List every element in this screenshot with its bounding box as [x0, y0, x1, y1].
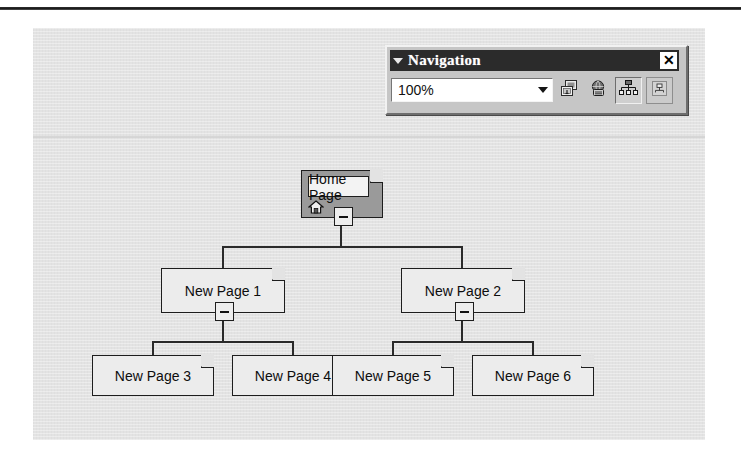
- connector-to-page4: [292, 341, 294, 356]
- external-link-button[interactable]: [586, 78, 611, 103]
- tree-node-label: New Page 3: [93, 356, 213, 395]
- tree-node-new-page-2[interactable]: New Page 2: [401, 268, 525, 313]
- tree-node-home-page[interactable]: Home Page: [301, 170, 383, 218]
- tree-node-label: New Page 5: [333, 356, 453, 395]
- connector-to-page2: [461, 246, 463, 268]
- triangle-down-icon[interactable]: [390, 50, 406, 71]
- collapse-toggle-new-page-2[interactable]: [455, 302, 474, 321]
- connector-to-page1: [222, 246, 224, 268]
- close-icon[interactable]: ✕: [660, 52, 677, 69]
- add-page-icon: [560, 79, 579, 102]
- chevron-down-icon[interactable]: [538, 87, 548, 93]
- navigation-toolbar-controls: 100%: [391, 75, 678, 105]
- tree-node-new-page-6[interactable]: New Page 6: [472, 355, 594, 396]
- portrait-landscape-button[interactable]: [615, 77, 642, 104]
- view-subtree-only-button[interactable]: [646, 77, 673, 104]
- navigation-toolbar-title: Navigation: [408, 52, 481, 69]
- connector-to-page5: [392, 341, 394, 356]
- navigation-toolbar-titlebar[interactable]: Navigation ✕: [390, 50, 679, 71]
- zoom-value: 100%: [392, 82, 434, 98]
- tree-node-new-page-3[interactable]: New Page 3: [92, 355, 214, 396]
- page-top-rule: [0, 7, 741, 10]
- add-existing-page-button[interactable]: [557, 78, 582, 103]
- collapse-toggle-new-page-1[interactable]: [215, 302, 234, 321]
- globe-link-icon: [589, 79, 608, 102]
- connector-to-page3: [152, 341, 154, 356]
- site-tree-icon: [619, 79, 638, 102]
- connector-row1-bus: [222, 246, 463, 248]
- zoom-combobox[interactable]: 100%: [391, 78, 553, 102]
- page-fold-corner-icon: [370, 170, 383, 183]
- home-icon: [308, 200, 324, 214]
- connector-to-page6: [532, 341, 534, 356]
- navigation-toolbar[interactable]: Navigation ✕ 100%: [385, 45, 688, 115]
- tree-node-label: New Page 6: [473, 356, 593, 395]
- connector-row2a-bus: [152, 341, 294, 343]
- connector-row2b-bus: [392, 341, 534, 343]
- subtree-icon: [651, 80, 668, 101]
- scan-artifact-line: [33, 136, 705, 138]
- tree-node-label: Home Page: [308, 176, 369, 197]
- tree-node-new-page-1[interactable]: New Page 1: [161, 268, 285, 313]
- tree-node-new-page-5[interactable]: New Page 5: [332, 355, 454, 396]
- collapse-toggle-home[interactable]: [334, 207, 353, 226]
